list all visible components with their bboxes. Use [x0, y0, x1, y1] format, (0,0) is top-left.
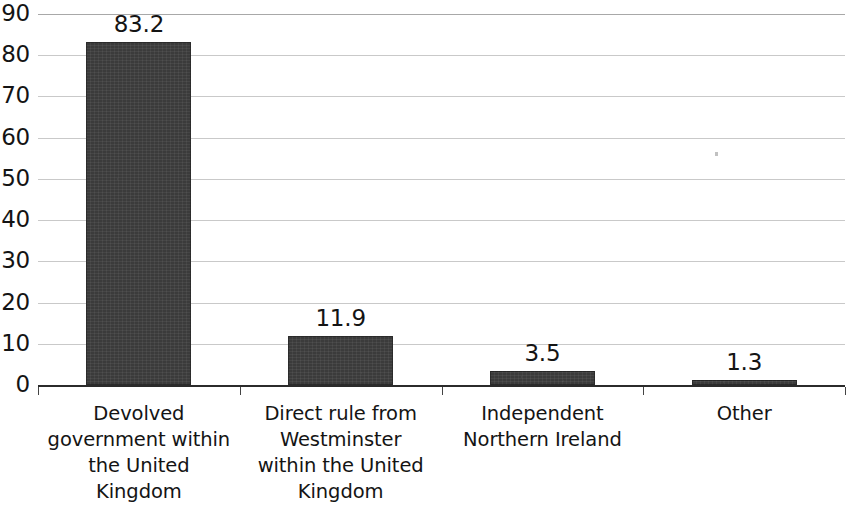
- x-axis-category-label: Other: [644, 401, 844, 427]
- y-axis-tick-label: 10: [0, 332, 30, 355]
- y-axis-tick-label: 80: [0, 43, 30, 66]
- x-axis-category-label: IndependentNorthern Ireland: [442, 401, 642, 453]
- x-axis-tick: [442, 387, 443, 395]
- category-label-line: Independent: [442, 401, 642, 427]
- bar-value-label: 3.5: [482, 342, 602, 365]
- bar: [288, 336, 393, 385]
- x-axis-tick: [643, 387, 644, 395]
- y-axis-tick-label: 50: [0, 167, 30, 190]
- x-axis-category-label: Devolvedgovernment withinthe UnitedKingd…: [39, 401, 239, 505]
- bar-value-label: 83.2: [79, 13, 199, 36]
- bar: [490, 371, 595, 385]
- bar-value-label: 11.9: [281, 307, 401, 330]
- y-axis-tick-label: 60: [0, 126, 30, 149]
- y-axis-tick-label: 90: [0, 2, 30, 25]
- category-label-line: Direct rule from: [241, 401, 441, 427]
- category-label-line: Devolved: [39, 401, 239, 427]
- y-axis-tick-label: 30: [0, 249, 30, 272]
- category-label-line: Westminster: [241, 427, 441, 453]
- bar: [86, 42, 191, 385]
- bar-value-label: 1.3: [684, 351, 804, 374]
- x-axis-tick: [845, 387, 846, 395]
- category-label-line: Northern Ireland: [442, 427, 642, 453]
- y-axis-tick-label: 40: [0, 208, 30, 231]
- category-label-line: the United: [39, 453, 239, 479]
- bar-chart: 9080706050403020100 83.211.93.51.3 Devol…: [0, 0, 849, 511]
- x-axis-tick: [38, 387, 39, 395]
- y-axis-tick-label: 20: [0, 291, 30, 314]
- category-label-line: within the United: [241, 453, 441, 479]
- y-axis-tick-label: 70: [0, 84, 30, 107]
- category-label-line: Kingdom: [39, 479, 239, 505]
- scan-speck: [715, 152, 718, 156]
- y-axis-tick-label: 0: [0, 373, 30, 396]
- category-label-line: Kingdom: [241, 479, 441, 505]
- category-label-line: Other: [644, 401, 844, 427]
- bar: [692, 380, 797, 385]
- x-axis-tick: [240, 387, 241, 395]
- category-label-line: government within: [39, 427, 239, 453]
- x-axis-category-label: Direct rule fromWestminsterwithin the Un…: [241, 401, 441, 505]
